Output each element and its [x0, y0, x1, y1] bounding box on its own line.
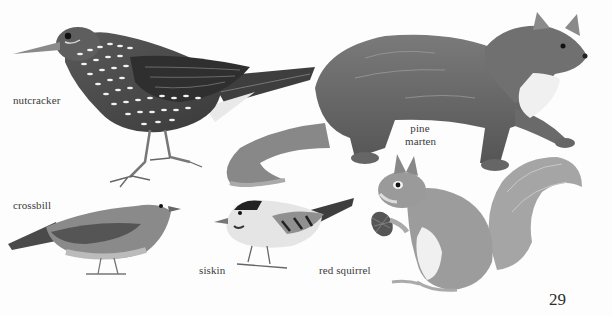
crossbill-caption: crossbill	[13, 199, 51, 212]
siskin-caption: siskin	[199, 264, 225, 277]
nutcracker-caption: nutcracker	[13, 94, 60, 107]
page-number: 29	[549, 290, 566, 310]
pine-marten-caption-line1: pine	[405, 122, 435, 135]
red-squirrel-illustration	[362, 152, 587, 300]
book-page: nutcracker	[0, 0, 612, 316]
pine-marten-caption: pine marten	[405, 122, 435, 148]
red-squirrel-caption: red squirrel	[319, 264, 371, 277]
pine-marten-caption-line2: marten	[405, 135, 435, 148]
